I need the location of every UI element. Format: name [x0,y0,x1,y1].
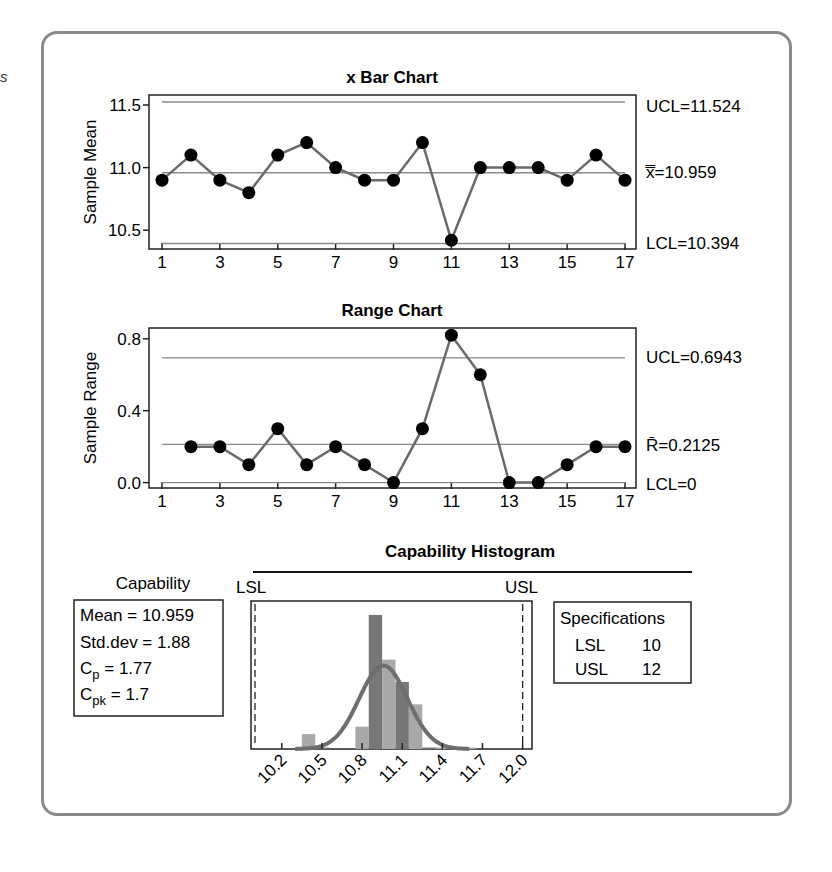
data-point [213,440,226,453]
data-point [590,440,603,453]
data-point [503,161,516,174]
data-point [416,422,429,435]
x-tick-label: 10.5 [294,750,331,787]
x-tick-label: 3 [215,492,224,511]
xbar-x-ticks: 1357911131517 [157,243,634,272]
x-tick-label: 11 [443,492,461,511]
y-tick-label: 11.5 [109,96,141,115]
xbar-cl-label: x̿=10.959 [645,163,716,182]
range-ucl-label: UCL=0.6943 [646,348,742,367]
data-point [416,136,429,149]
range-title: Range Chart [341,301,442,320]
x-tick-label: 11.1 [375,750,411,786]
xbar-series [156,136,632,247]
data-point [561,174,574,187]
data-point [271,149,284,162]
data-point [619,440,632,453]
xbar-title: x Bar Chart [346,68,438,87]
y-tick-label: 0.4 [117,402,141,421]
range-y-ticks: 0.00.40.8 [117,330,149,493]
data-point [445,234,458,247]
x-tick-label: 9 [389,253,398,272]
data-point [619,174,632,187]
data-point [474,161,487,174]
range-cl-label: R̄=0.2125 [646,436,720,455]
range-lcl-label: LCL=0 [646,475,697,494]
x-tick-label: 10.8 [334,750,371,787]
specifications-heading: Specifications [560,609,665,628]
data-point [213,174,226,187]
spc-charts: x Bar Chart Sample Mean 10.511.011.5 135… [0,0,832,872]
x-tick-label: 7 [331,253,340,272]
x-tick-label: 13 [500,253,519,272]
histogram-bar [422,748,435,749]
x-tick-label: 1 [157,492,166,511]
data-point [532,161,545,174]
data-point [300,458,313,471]
x-tick-label: 13 [500,492,519,511]
x-tick-label: 17 [616,253,635,272]
xbar-y-ticks: 10.511.011.5 [108,96,149,240]
data-point [532,476,545,489]
histogram-bar [369,615,382,749]
x-tick-label: 5 [273,253,282,272]
x-tick-label: 17 [616,492,635,511]
data-point [358,458,371,471]
x-tick-label: 3 [215,253,224,272]
data-point [387,174,400,187]
x-tick-label: 7 [331,492,340,511]
range-control-lines [162,358,625,483]
capability-histogram: Capability Histogram LSL USL 10.210.510.… [236,542,692,787]
xbar-lcl-label: LCL=10.394 [646,234,739,253]
data-point [474,368,487,381]
specifications-panel: Specifications LSL 10 USL 12 [554,602,691,683]
capability-mean: Mean = 10.959 [80,606,194,625]
y-tick-label: 10.5 [108,221,141,240]
x-tick-label: 11 [443,253,461,272]
xbar-plot-box [149,95,636,249]
data-point [561,458,574,471]
x-tick-label: 12.0 [495,750,532,787]
xbar-ucl-label: UCL=11.524 [646,97,741,116]
capability-cp: Cp = 1.77 [80,659,152,682]
histogram-bars [302,615,476,749]
x-tick-label: 11.4 [415,750,451,786]
data-point [503,476,516,489]
spec-lsl-value: 10 [642,636,661,655]
x-tick-label: 1 [157,253,166,272]
xbar-ylabel: Sample Mean [81,120,100,225]
y-tick-label: 0.8 [117,330,141,349]
data-point [184,149,197,162]
histogram-title: Capability Histogram [385,542,555,561]
range-ylabel: Sample Range [81,352,100,464]
data-point [329,440,342,453]
range-chart: Range Chart Sample Range 0.00.40.8 13579… [81,301,742,511]
data-point [358,174,371,187]
data-point [387,476,400,489]
x-tick-label: 15 [558,492,577,511]
x-tick-label: 10.2 [254,750,291,787]
xbar-chart: x Bar Chart Sample Mean 10.511.011.5 135… [81,68,741,272]
data-point [329,161,342,174]
spec-usl-name: USL [575,660,608,679]
x-tick-label: 15 [558,253,577,272]
y-tick-label: 0.0 [117,474,141,493]
data-point [156,174,169,187]
capability-heading: Capability [116,574,191,593]
usl-marker-label: USL [505,578,538,597]
capability-cpk: Cpk = 1.7 [80,685,149,708]
spec-lsl-name: LSL [575,636,605,655]
data-point [184,440,197,453]
capability-std: Std.dev = 1.88 [80,633,190,652]
spec-usl-value: 12 [642,660,661,679]
x-tick-label: 9 [389,492,398,511]
data-point [300,136,313,149]
lsl-marker-label: LSL [236,578,266,597]
data-point [242,186,255,199]
x-tick-label: 11.7 [455,750,491,786]
data-point [590,149,603,162]
data-point [242,458,255,471]
xbar-control-lines [162,102,625,243]
x-tick-label: 5 [273,492,282,511]
y-tick-label: 11.0 [109,159,141,178]
